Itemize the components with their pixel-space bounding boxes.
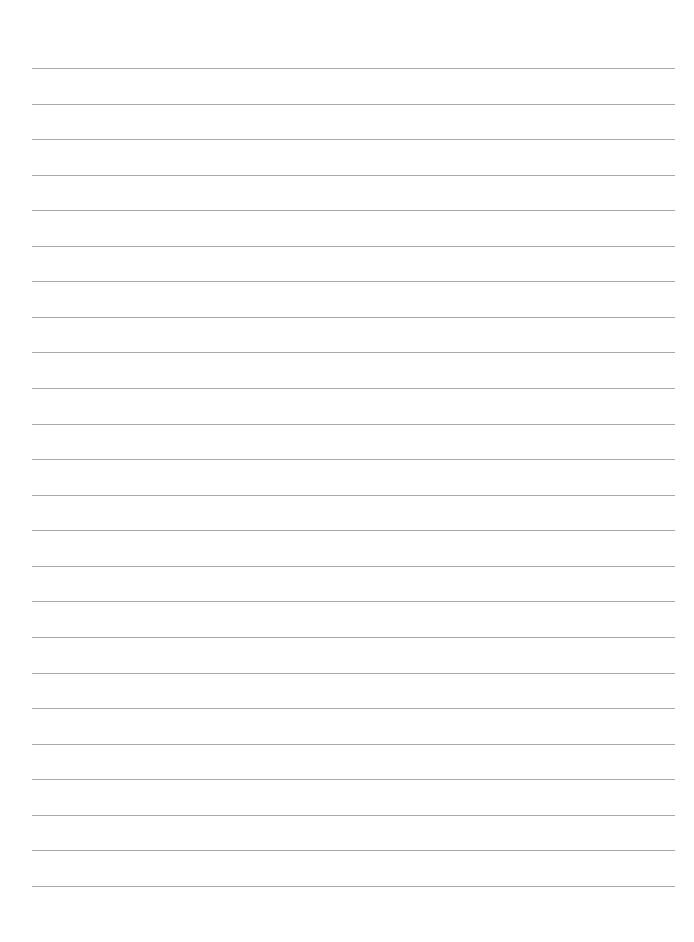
ruled-line (32, 175, 675, 176)
ruled-line (32, 744, 675, 745)
ruled-line (32, 495, 675, 496)
ruled-line (32, 388, 675, 389)
ruled-line (32, 139, 675, 140)
ruled-line (32, 815, 675, 816)
ruled-line (32, 210, 675, 211)
ruled-line (32, 673, 675, 674)
ruled-line (32, 281, 675, 282)
ruled-line (32, 601, 675, 602)
ruled-line (32, 850, 675, 851)
ruled-line (32, 886, 675, 887)
ruled-line (32, 424, 675, 425)
ruled-line (32, 779, 675, 780)
ruled-line (32, 104, 675, 105)
ruled-line (32, 352, 675, 353)
ruled-line (32, 566, 675, 567)
ruled-line (32, 637, 675, 638)
ruled-line (32, 317, 675, 318)
lined-paper-page (0, 0, 694, 942)
ruled-line (32, 459, 675, 460)
ruled-line (32, 246, 675, 247)
ruled-line (32, 68, 675, 69)
ruled-line (32, 708, 675, 709)
ruled-line (32, 530, 675, 531)
